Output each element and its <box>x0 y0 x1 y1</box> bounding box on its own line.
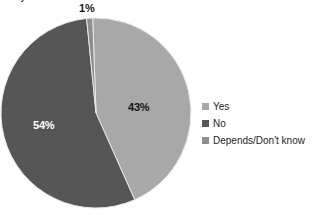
chart-legend: YesNoDepends/Don't know <box>202 99 316 150</box>
legend-swatch-icon <box>202 103 209 110</box>
legend-item[interactable]: No <box>202 116 316 131</box>
legend-item-label: Depends/Don't know <box>213 135 305 146</box>
slice-label-yes: 43% <box>128 101 149 113</box>
legend-swatch-icon <box>202 120 209 127</box>
slice-label-no: 54% <box>33 119 54 131</box>
legend-item-label: Yes <box>213 101 229 112</box>
legend-item-label: No <box>213 118 226 129</box>
chart-screenshot: Do you think that ... ? 1% 43% 54% YesNo… <box>0 0 318 215</box>
legend-item[interactable]: Depends/Don't know <box>202 133 316 148</box>
slice-label-depends: 1% <box>79 2 95 14</box>
pie-slices-group <box>1 18 191 208</box>
legend-swatch-icon <box>202 137 209 144</box>
legend-item[interactable]: Yes <box>202 99 316 114</box>
